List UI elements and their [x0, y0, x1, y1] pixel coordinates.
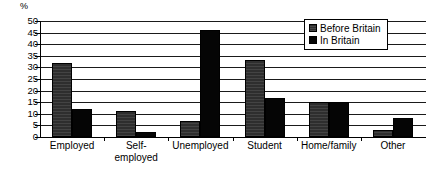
legend-item-label: Before Britain — [320, 23, 381, 34]
x-axis-category-label: Unemployed — [168, 140, 232, 152]
x-axis-category-label-line: Self- — [104, 140, 168, 152]
bar — [200, 30, 220, 137]
x-axis-category-labels: EmployedSelf-employedUnemployedStudentHo… — [40, 140, 425, 174]
legend-swatch-icon — [309, 24, 317, 32]
legend-item: Before Britain — [309, 22, 381, 34]
y-axis-tick-label: 5 — [18, 121, 38, 131]
bar — [116, 111, 136, 137]
y-axis-tick-labels: 50454035302520151050 — [18, 0, 38, 175]
x-axis-category-label-line: employed — [104, 152, 168, 164]
x-axis-category-label: Home/family — [297, 140, 361, 152]
legend-item-label: In Britain — [320, 35, 359, 46]
x-axis-category-label-line: Student — [233, 140, 297, 152]
chart-legend: Before BritainIn Britain — [304, 19, 388, 50]
bar — [265, 98, 285, 137]
y-axis-tick-label: 40 — [18, 39, 38, 49]
y-axis-tick-label: 0 — [18, 132, 38, 142]
bar — [393, 118, 413, 137]
x-axis-category-label: Student — [233, 140, 297, 152]
bar — [245, 60, 265, 137]
y-axis-tick-label: 50 — [18, 16, 38, 26]
legend-swatch-icon — [309, 36, 317, 44]
x-axis-category-label-line: Home/family — [297, 140, 361, 152]
bar — [329, 102, 349, 137]
y-axis-tick-label: 35 — [18, 51, 38, 61]
bar — [72, 109, 92, 137]
bar — [373, 130, 393, 137]
y-axis-tick-label: 10 — [18, 109, 38, 119]
bar-chart: % 50454035302520151050 EmployedSelf-empl… — [0, 0, 433, 175]
x-axis-category-label: Employed — [40, 140, 104, 152]
bar — [52, 63, 72, 137]
bar — [136, 132, 156, 137]
x-axis-category-label: Other — [361, 140, 425, 152]
x-axis-category-label-line: Unemployed — [168, 140, 232, 152]
y-axis-tick-label: 45 — [18, 28, 38, 38]
legend-item: In Britain — [309, 34, 381, 46]
y-axis-tick-label: 30 — [18, 63, 38, 73]
x-axis-category-label-line: Other — [361, 140, 425, 152]
bar — [309, 102, 329, 137]
y-axis-tick-label: 20 — [18, 86, 38, 96]
y-axis-tick-label: 25 — [18, 74, 38, 84]
x-axis-category-label: Self-employed — [104, 140, 168, 164]
bar — [180, 121, 200, 137]
y-axis-tick-label: 15 — [18, 97, 38, 107]
x-axis-category-label-line: Employed — [40, 140, 104, 152]
